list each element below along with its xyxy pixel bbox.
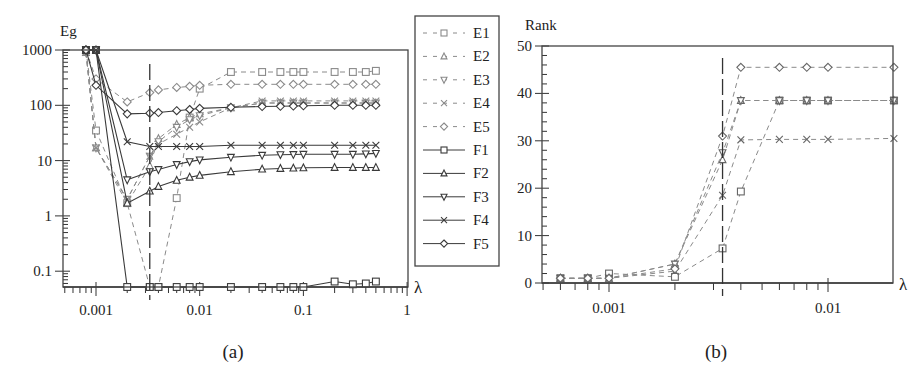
svg-text:50: 50: [517, 38, 532, 54]
chart-b: Rank 01020304050 0.0010.01 λ (b): [517, 17, 908, 363]
series-E3: [557, 98, 897, 283]
series-b: [556, 63, 898, 282]
svg-text:F5: F5: [473, 236, 489, 252]
figure: Eg 0.11101001000 0.0010.010.11 λ (a) E1E…: [0, 0, 919, 376]
svg-text:20: 20: [517, 180, 532, 196]
svg-text:1000: 1000: [22, 42, 52, 58]
svg-text:0.01: 0.01: [187, 302, 213, 318]
svg-text:40: 40: [517, 85, 532, 101]
svg-text:1: 1: [45, 208, 53, 224]
x-axis-ticks-b: 0.0010.01: [542, 278, 893, 316]
series-E2: [557, 97, 897, 282]
svg-text:0.001: 0.001: [79, 302, 113, 318]
svg-text:0.1: 0.1: [33, 263, 52, 279]
svg-text:F2: F2: [473, 165, 489, 181]
svg-text:1: 1: [403, 302, 411, 318]
y-axis-label-b: Rank: [525, 17, 557, 33]
series-E1: [557, 97, 897, 282]
svg-text:100: 100: [30, 97, 53, 113]
svg-text:E1: E1: [473, 25, 490, 41]
series-E5: [556, 63, 898, 282]
series-E4: [557, 135, 897, 282]
series-a: [82, 46, 380, 290]
y-axis-ticks-b: 01020304050: [517, 38, 549, 291]
svg-text:E3: E3: [473, 72, 490, 88]
svg-text:E4: E4: [473, 95, 490, 111]
svg-text:10: 10: [517, 228, 532, 244]
plot-frame-b: [542, 46, 893, 283]
chart-a: Eg 0.11101001000 0.0010.010.11 λ (a): [22, 23, 423, 363]
svg-text:F3: F3: [473, 189, 489, 205]
svg-text:0.1: 0.1: [294, 302, 313, 318]
svg-text:E2: E2: [473, 48, 490, 64]
svg-text:0: 0: [525, 275, 533, 291]
caption-b: (b): [705, 341, 727, 363]
svg-text:10: 10: [37, 153, 52, 169]
svg-text:30: 30: [517, 133, 532, 149]
y-axis-label-a: Eg: [60, 23, 77, 39]
caption-a: (a): [222, 341, 243, 363]
legend: E1E2E3E4E5F1F2F3F4F5: [415, 16, 499, 266]
series-E5: [82, 46, 380, 106]
svg-text:F1: F1: [473, 142, 489, 158]
x-axis-label-a: λ: [414, 278, 423, 297]
svg-text:F4: F4: [473, 212, 489, 228]
svg-text:0.01: 0.01: [815, 300, 841, 316]
x-axis-label-b: λ: [899, 275, 908, 294]
svg-text:0.001: 0.001: [592, 300, 626, 316]
svg-text:E5: E5: [473, 119, 490, 135]
